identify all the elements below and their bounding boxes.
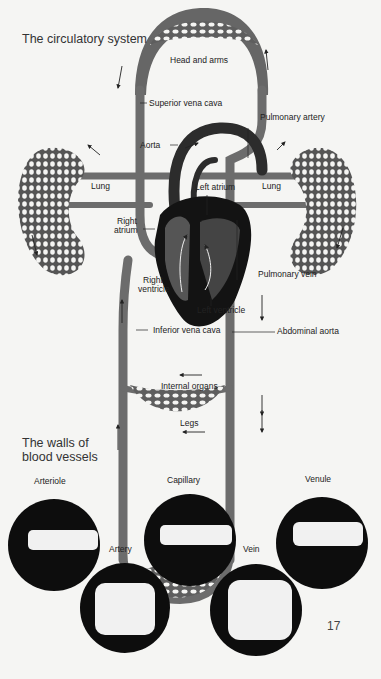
label-pulmonary-vein: Pulmonary vein bbox=[258, 270, 317, 279]
vessel-wall-illustrations bbox=[8, 494, 368, 656]
label-left-ventricle: Left ventricle bbox=[197, 306, 245, 315]
label-lung-right: Lung bbox=[262, 182, 281, 191]
right-lung bbox=[290, 148, 356, 275]
vein-tube bbox=[228, 580, 292, 640]
label-abdominal-aorta: Abdominal aorta bbox=[277, 327, 339, 336]
label-left-atrium: Left atrium bbox=[195, 183, 235, 192]
venule-tube bbox=[293, 522, 363, 546]
left-lung bbox=[18, 148, 84, 275]
label-inferior-vena-cava: Inferior vena cava bbox=[153, 326, 221, 335]
label-internal-organs: Internal organs bbox=[161, 382, 218, 391]
label-vein: Vein bbox=[243, 545, 260, 554]
label-head-and-arms: Head and arms bbox=[170, 56, 228, 65]
label-capillary: Capillary bbox=[167, 476, 200, 485]
label-artery: Artery bbox=[109, 545, 132, 554]
page-number: 17 bbox=[327, 619, 340, 633]
head-capillary-bed bbox=[135, 8, 268, 95]
label-right-atrium-line2: atrium bbox=[114, 226, 138, 235]
label-right-ventricle-line2: ventricle bbox=[138, 285, 170, 294]
label-venule: Venule bbox=[305, 475, 331, 484]
artery-tube bbox=[95, 583, 155, 635]
label-pulmonary-artery: Pulmonary artery bbox=[260, 113, 325, 122]
textbook-page: The circulatory system The walls of bloo… bbox=[0, 0, 381, 679]
label-legs: Legs bbox=[180, 419, 198, 428]
label-lung-left: Lung bbox=[91, 182, 110, 191]
label-aorta: Aorta bbox=[140, 141, 160, 150]
vessel-walls-title-line2: blood vessels bbox=[22, 450, 98, 464]
arteriole-tube bbox=[28, 530, 98, 550]
label-superior-vena-cava: Superior vena cava bbox=[149, 99, 222, 108]
capillary-tube bbox=[160, 525, 232, 545]
circulatory-system-title: The circulatory system bbox=[22, 32, 147, 46]
vessel-walls-title-line1: The walls of bbox=[22, 436, 89, 450]
label-arteriole: Arteriole bbox=[34, 477, 66, 486]
